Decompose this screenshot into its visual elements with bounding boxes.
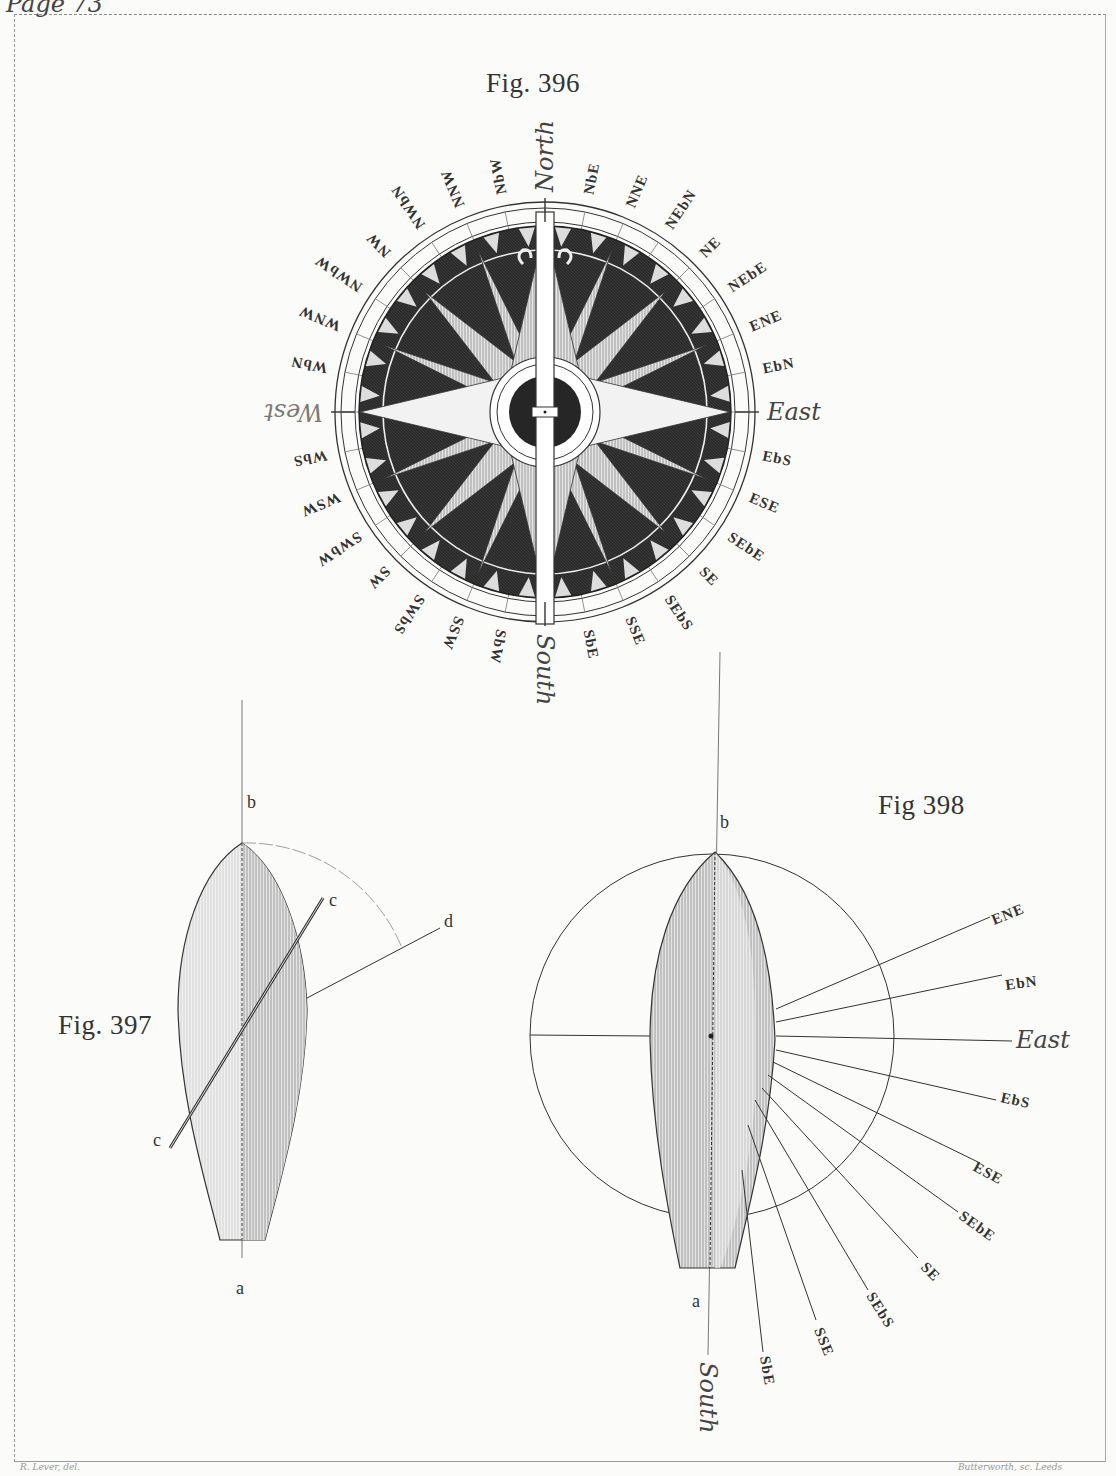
fig398-south-label: South <box>694 1362 722 1433</box>
fig398-ray-label: SE <box>918 1259 944 1285</box>
fig398-ray-label: SbE <box>757 1355 778 1387</box>
fig398-ray-label: SEbE <box>956 1207 998 1244</box>
fig398-ray-label: SEbS <box>863 1289 897 1331</box>
fig398-label-a: a <box>692 1291 700 1311</box>
fig398-ray-label: East <box>1015 1026 1070 1054</box>
fig398-label-b: b <box>720 812 729 832</box>
fig398-ray-label: ENE <box>989 900 1026 928</box>
fig398-ray-label: EbN <box>1004 973 1038 993</box>
fig398-ray-label: EbS <box>999 1089 1031 1111</box>
fig398-ray-label: SSE <box>811 1325 837 1359</box>
fig398-ray-label: ESE <box>971 1159 1006 1188</box>
fig398-diagram: ENEEbNEastEbSESESEbESESEbSSSESbE b a Sou… <box>0 0 1116 1476</box>
